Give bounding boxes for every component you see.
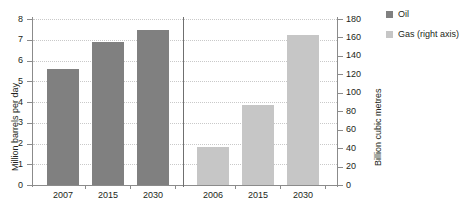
right-axis-tick-label: 60 xyxy=(346,125,356,134)
x-axis-label: 2015 xyxy=(235,191,281,200)
right-axis-tick xyxy=(337,148,343,149)
left-axis-tick xyxy=(27,164,33,165)
bar-oil-2030 xyxy=(137,30,169,185)
right-axis-tick-label: 180 xyxy=(346,15,361,24)
right-axis-title: Billion cubic metres xyxy=(374,88,383,166)
x-axis-tick xyxy=(130,185,131,189)
x-axis-label: 2015 xyxy=(85,191,131,200)
left-axis-tick xyxy=(27,185,33,186)
left-axis-title: Million barrels per day xyxy=(11,83,20,171)
bar-oil-2007 xyxy=(47,69,79,185)
x-axis-label: 2030 xyxy=(130,191,176,200)
legend-item-gas: Gas (right axis) xyxy=(386,30,459,39)
right-axis-tick-label: 100 xyxy=(346,88,361,97)
legend-swatch-oil xyxy=(386,11,393,18)
right-axis-tick xyxy=(337,130,343,131)
right-axis-tick-label: 160 xyxy=(346,33,361,42)
x-axis-tick xyxy=(325,185,326,189)
right-axis-tick xyxy=(337,167,343,168)
x-axis-tick xyxy=(235,185,236,189)
right-axis-tick-label: 80 xyxy=(346,107,356,116)
legend-label-gas: Gas (right axis) xyxy=(398,30,459,39)
legend-swatch-gas xyxy=(386,31,393,38)
gridline xyxy=(33,19,337,20)
right-axis-tick-label: 0 xyxy=(346,181,351,190)
left-axis-tick-label: 0 xyxy=(18,181,23,190)
right-axis-line xyxy=(337,17,338,187)
right-axis-tick xyxy=(337,19,343,20)
left-axis-tick xyxy=(27,102,33,103)
bar-oil-2015 xyxy=(92,42,124,185)
left-axis-tick-label: 8 xyxy=(18,15,23,24)
x-axis-label: 2030 xyxy=(280,191,326,200)
bar-gas-2006 xyxy=(197,147,229,185)
left-axis-tick-label: 6 xyxy=(18,56,23,65)
x-axis-label: 2007 xyxy=(40,191,86,200)
left-axis-tick xyxy=(27,40,33,41)
right-axis-tick xyxy=(337,111,343,112)
left-axis-tick xyxy=(27,19,33,20)
legend-label-oil: Oil xyxy=(398,10,409,19)
x-axis-tick xyxy=(85,185,86,189)
left-axis-tick xyxy=(27,81,33,82)
bar-gas-2015 xyxy=(242,105,274,185)
left-axis-tick xyxy=(27,144,33,145)
left-axis-tick-label: 7 xyxy=(18,35,23,44)
right-axis-tick-label: 120 xyxy=(346,70,361,79)
chart-legend: Oil Gas (right axis) xyxy=(386,10,459,50)
bar-gas-2030 xyxy=(287,35,319,185)
x-axis-label: 2006 xyxy=(190,191,236,200)
right-axis-tick xyxy=(337,56,343,57)
right-axis-tick-label: 20 xyxy=(346,162,356,171)
right-axis-tick xyxy=(337,185,343,186)
right-axis-tick xyxy=(337,37,343,38)
x-axis-tick xyxy=(280,185,281,189)
right-axis-tick-label: 140 xyxy=(346,51,361,60)
right-axis-tick xyxy=(337,74,343,75)
bottom-axis-line xyxy=(32,185,338,186)
left-axis-tick xyxy=(27,61,33,62)
legend-item-oil: Oil xyxy=(386,10,459,19)
right-axis-tick xyxy=(337,93,343,94)
left-axis-tick xyxy=(27,123,33,124)
panel-divider xyxy=(183,17,184,187)
right-axis-tick-label: 40 xyxy=(346,144,356,153)
x-axis-tick xyxy=(175,185,176,189)
